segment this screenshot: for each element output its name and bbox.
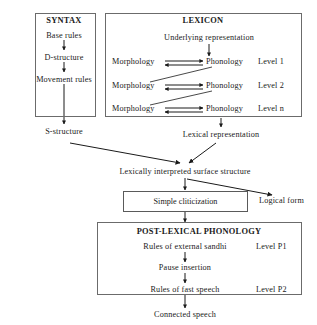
- lexicon-level2-phonology: Phonology: [206, 82, 243, 90]
- arrow-s-structure-to-surface-structure: [70, 143, 180, 163]
- diagram-canvas: SYNTAX Base rules D-structure Movement r…: [0, 0, 317, 325]
- postlexical-step-fast-speech: Rules of fast speech: [151, 286, 220, 294]
- lexicon-leveln-phonology: Phonology: [206, 105, 243, 113]
- simple-cliticization-label: Simple cliticization: [154, 197, 218, 206]
- syntax-step-movement-rules: Movement rules: [36, 76, 92, 84]
- lexicon-level2-morphology: Morphology: [112, 82, 155, 90]
- lexicon-level1-morphology: Morphology: [112, 58, 155, 66]
- postlexical-step-pause-insertion: Pause insertion: [159, 264, 211, 272]
- syntax-output-s-structure: S-structure: [45, 128, 83, 136]
- syntax-step-base-rules: Base rules: [46, 32, 82, 40]
- lexicon-leveln-label: Level n: [258, 105, 284, 113]
- postlexical-header: POST-LEXICAL PHONOLOGY: [137, 228, 262, 236]
- lexicon-level1-phonology: Phonology: [206, 58, 243, 66]
- syntax-step-d-structure: D-structure: [44, 54, 83, 62]
- lexicon-level1-label: Level 1: [258, 58, 284, 66]
- syntax-box-frame: [35, 13, 96, 117]
- syntax-header: SYNTAX: [46, 17, 81, 25]
- lexicon-output-lexical-representation: Lexical representation: [183, 131, 260, 139]
- arrow-lexical-representation-to-surface-structure: [189, 143, 216, 163]
- postlexical-level-p1: Level P1: [256, 243, 287, 251]
- postlexical-level-p2: Level P2: [256, 286, 287, 294]
- postlexical-output-connected-speech: Connected speech: [154, 311, 216, 319]
- logical-form-label: Logical form: [259, 197, 304, 205]
- lexicon-input-underlying-representation: Underlying representation: [164, 34, 254, 42]
- surface-structure-label: Lexically interpreted surface structure: [119, 168, 250, 176]
- simple-cliticization-box: Simple cliticization: [123, 191, 248, 212]
- lexicon-header: LEXICON: [183, 17, 224, 25]
- lexicon-leveln-morphology: Morphology: [112, 105, 155, 113]
- lexicon-level2-label: Level 2: [258, 82, 284, 90]
- postlexical-step-external-sandhi: Rules of external sandhi: [143, 243, 226, 251]
